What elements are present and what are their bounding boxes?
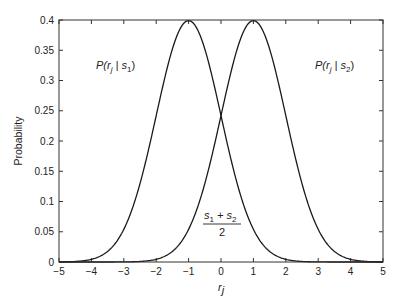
x-tick-label: 4 <box>348 266 354 277</box>
x-tick-label: −5 <box>53 266 65 277</box>
x-tick-label: −3 <box>118 266 130 277</box>
y-tick-label: 0.1 <box>40 196 54 207</box>
x-tick-label: 1 <box>251 266 257 277</box>
x-tick-label: 5 <box>380 266 386 277</box>
y-tick-label: 0.25 <box>35 105 55 116</box>
x-tick-label: 2 <box>283 266 289 277</box>
x-axis-label: rj <box>218 281 225 296</box>
y-tick-label: 0.15 <box>35 166 55 177</box>
y-axis-label: Probability <box>12 116 24 166</box>
x-tick-label: 0 <box>218 266 224 277</box>
y-tick-label: 0.2 <box>40 136 54 147</box>
y-tick-label: 0.4 <box>40 15 54 26</box>
ticks-layer: −5−4−3−2−101234500.050.10.150.20.250.30.… <box>35 15 387 278</box>
x-tick-label: −1 <box>183 266 195 277</box>
annotation-p-given-s1: P(rj | s1) <box>96 59 135 74</box>
x-tick-label: −2 <box>150 266 162 277</box>
y-tick-label: 0 <box>48 257 54 268</box>
fraction-numerator: s1 + s2 <box>204 209 237 224</box>
fraction-denominator: 2 <box>219 226 225 238</box>
chart: −5−4−3−2−101234500.050.10.150.20.250.30.… <box>0 0 402 306</box>
annotation-midpoint-fraction: s1 + s2 2 <box>203 209 241 238</box>
x-tick-label: −4 <box>86 266 98 277</box>
annotation-p-given-s2: P(rj | s2) <box>315 59 354 74</box>
y-tick-label: 0.3 <box>40 75 54 86</box>
x-tick-label: 3 <box>315 266 321 277</box>
y-tick-label: 0.35 <box>35 45 55 56</box>
y-tick-label: 0.05 <box>35 226 55 237</box>
